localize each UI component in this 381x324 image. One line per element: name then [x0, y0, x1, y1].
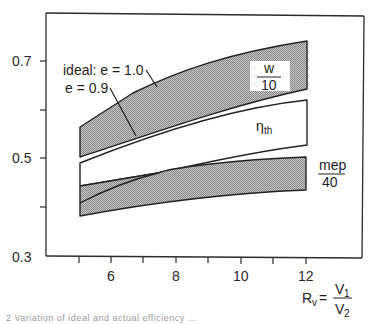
y-tick-label: 0.3 — [12, 249, 32, 265]
rv-subscript: v — [312, 297, 317, 308]
figure-caption: 2 Variation of ideal and actual efficien… — [6, 313, 197, 323]
x-axis-labels: 6 8 10 12 — [107, 268, 314, 284]
y-axis-labels: 0.7 0.5 0.3 — [12, 53, 32, 265]
v1-subscript: 1 — [344, 288, 350, 299]
mep-label: mep 40 — [318, 157, 346, 190]
x-tick-label: 10 — [233, 268, 249, 284]
x-axis-title: R v = V 1 V 2 — [302, 281, 352, 319]
mep-numerator: mep — [319, 157, 346, 173]
rv-equals: = — [319, 290, 327, 306]
x-tick-label: 8 — [172, 268, 180, 284]
ideal-label: ideal: e = 1.0 — [63, 62, 144, 78]
rv-symbol: R — [302, 290, 312, 306]
e09-label: e = 0.9 — [65, 80, 108, 96]
eta-symbol: η — [256, 118, 264, 134]
v2-subscript: 2 — [344, 308, 350, 319]
x-tick-label: 6 — [107, 268, 115, 284]
eta-subscript: th — [264, 125, 272, 136]
x-tick-label: 12 — [298, 268, 314, 284]
y-tick-label: 0.7 — [12, 53, 32, 69]
y-axis-ticks — [40, 61, 46, 207]
y-tick-label: 0.5 — [12, 150, 32, 166]
mep-denominator: 40 — [322, 174, 338, 190]
efficiency-chart: 0.7 0.5 0.3 6 8 10 12 w 10 η th — [0, 0, 381, 324]
w-label: w 10 — [250, 60, 290, 93]
w-numerator: w — [263, 60, 275, 76]
w-denominator: 10 — [261, 77, 277, 93]
